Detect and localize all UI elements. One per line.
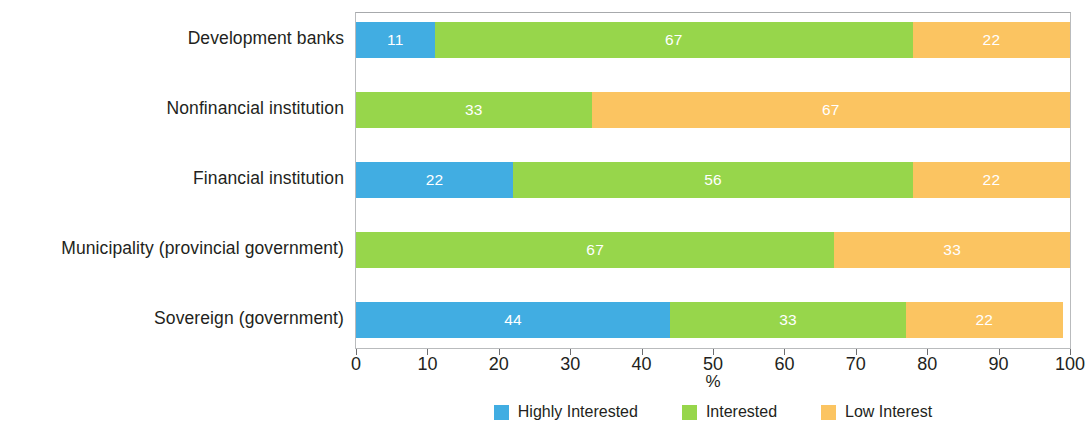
legend-label: Highly Interested — [518, 404, 638, 420]
bar-row: 225622 — [356, 162, 1070, 198]
category-label: Sovereign (government) — [0, 310, 344, 328]
legend-swatch-icon — [682, 405, 697, 420]
bar-segment: 22 — [913, 162, 1070, 198]
bar-value-label: 22 — [983, 172, 1001, 188]
x-axis-tick-label: 20 — [489, 355, 509, 373]
category-label: Municipality (provincial government) — [0, 240, 344, 258]
bar-segment: 22 — [356, 162, 513, 198]
bar-value-label: 33 — [779, 312, 797, 328]
bar-value-label: 11 — [387, 32, 404, 48]
x-axis-tick-label: 60 — [774, 355, 794, 373]
legend-label: Low Interest — [845, 404, 932, 420]
x-axis-tick-label: 50 — [703, 355, 723, 373]
plot-area: 11672233672256226733443322 — [355, 12, 1071, 349]
bar-row: 6733 — [356, 232, 1070, 268]
bar-value-label: 22 — [975, 312, 993, 328]
bar-segment: 33 — [356, 92, 592, 128]
x-axis-tick-label: 70 — [846, 355, 866, 373]
legend-item[interactable]: Interested — [682, 404, 777, 420]
bar-segment: 67 — [435, 22, 913, 58]
stacked-bar-chart: Development banksNonfinancial institutio… — [0, 0, 1090, 429]
bar-segment: 22 — [913, 22, 1070, 58]
bar-value-label: 33 — [943, 242, 961, 258]
bar-value-label: 67 — [586, 242, 604, 258]
x-axis-tick-label: 40 — [632, 355, 652, 373]
x-axis-tick-label: 0 — [351, 355, 361, 373]
category-axis-labels: Development banksNonfinancial institutio… — [0, 12, 344, 349]
x-axis-tick-label: 30 — [560, 355, 580, 373]
category-label: Development banks — [0, 30, 344, 48]
bar-segment: 67 — [592, 92, 1070, 128]
bar-value-label: 44 — [504, 312, 522, 328]
bar-value-label: 33 — [465, 102, 483, 118]
legend-swatch-icon — [821, 405, 836, 420]
bar-value-label: 56 — [704, 172, 722, 188]
category-label: Nonfinancial institution — [0, 100, 344, 118]
legend-item[interactable]: Low Interest — [821, 404, 932, 420]
x-axis-title: % — [355, 373, 1071, 390]
x-axis-tick-label: 80 — [917, 355, 937, 373]
category-label: Financial institution — [0, 170, 344, 188]
bar-segment: 67 — [356, 232, 834, 268]
bar-segment: 56 — [513, 162, 913, 198]
bar-segment: 33 — [670, 302, 906, 338]
bar-value-label: 22 — [983, 32, 1001, 48]
bar-value-label: 22 — [426, 172, 444, 188]
bar-segment: 22 — [906, 302, 1063, 338]
bar-row: 443322 — [356, 302, 1070, 338]
bar-value-label: 67 — [665, 32, 683, 48]
legend-swatch-icon — [494, 405, 509, 420]
x-axis-tick-label: 100 — [1055, 355, 1085, 373]
bar-segment: 44 — [356, 302, 670, 338]
x-axis-tick-label: 10 — [417, 355, 437, 373]
legend-label: Interested — [706, 404, 777, 420]
x-axis-tick-label: 90 — [989, 355, 1009, 373]
legend-item[interactable]: Highly Interested — [494, 404, 638, 420]
bar-row: 3367 — [356, 92, 1070, 128]
bar-segment: 33 — [834, 232, 1070, 268]
chart-legend: Highly InterestedInterestedLow Interest — [355, 400, 1071, 424]
bar-value-label: 67 — [822, 102, 840, 118]
bar-segment: 11 — [356, 22, 435, 58]
bar-row: 116722 — [356, 22, 1070, 58]
